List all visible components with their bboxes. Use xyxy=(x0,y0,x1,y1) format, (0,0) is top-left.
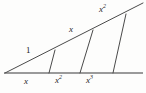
geometry-canvas xyxy=(0,0,146,93)
label-base-x-cubed: x3 xyxy=(86,76,93,85)
label-base-x-squared: x2 xyxy=(55,76,62,85)
label-base-x: x xyxy=(24,77,28,86)
transversal-segment-2 xyxy=(80,30,93,73)
label-base-x-cubed-exponent: 3 xyxy=(90,74,93,80)
label-hypotenuse-x: x xyxy=(69,25,73,34)
transversal-segment-1 xyxy=(49,50,55,73)
hypotenuse-ray xyxy=(5,3,143,73)
label-hypotenuse-one: 1 xyxy=(26,46,31,55)
geometry-figure: 1 x x2 x x2 x3 xyxy=(0,0,146,93)
label-hypotenuse-x-squared-exponent: 2 xyxy=(103,3,106,9)
label-hypotenuse-x-squared: x2 xyxy=(99,5,106,14)
label-base-x-squared-exponent: 2 xyxy=(59,74,62,80)
transversal-segment-3 xyxy=(113,14,126,73)
